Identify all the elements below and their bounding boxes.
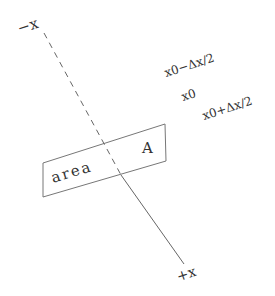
axis-solid-segment — [121, 175, 184, 264]
area-parallelogram — [43, 124, 166, 197]
axis-dashed-segment — [44, 33, 121, 175]
label-x0: x0 — [180, 86, 198, 104]
label-x0-minus-half-dx: x0−Δx/2 — [163, 51, 216, 80]
label-A: A — [141, 139, 153, 157]
diagram-canvas: −x +x x0−Δx/2 x0 x0+Δx/2 area A — [0, 0, 275, 296]
axis-negative-label: −x — [15, 14, 41, 38]
label-area: area — [49, 157, 94, 186]
label-x0-plus-half-dx: x0+Δx/2 — [201, 94, 254, 123]
axis-positive-label: +x — [174, 263, 198, 284]
